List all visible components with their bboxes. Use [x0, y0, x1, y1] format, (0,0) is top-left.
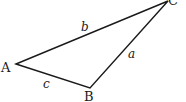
side-label-c: c [43, 77, 50, 91]
vertex-label-a: A [0, 60, 11, 75]
triangle-diagram: A B C b a c [0, 0, 186, 102]
vertex-label-c: C [168, 0, 178, 8]
vertex-label-b: B [84, 89, 94, 102]
side-label-a: a [128, 47, 135, 61]
side-label-b: b [81, 20, 89, 34]
triangle-abc [16, 1, 168, 88]
